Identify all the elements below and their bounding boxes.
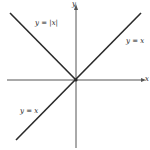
origin-point — [74, 78, 77, 81]
abs-label: y = |x| — [35, 20, 58, 27]
line-lower-label: y = x — [20, 108, 38, 115]
line-upper-label: y = x — [126, 38, 144, 45]
y-axis-label: y — [72, 1, 76, 8]
graph-canvas — [0, 0, 150, 150]
line-y-equals-x — [16, 13, 141, 140]
x-axis-label: x — [145, 76, 149, 83]
